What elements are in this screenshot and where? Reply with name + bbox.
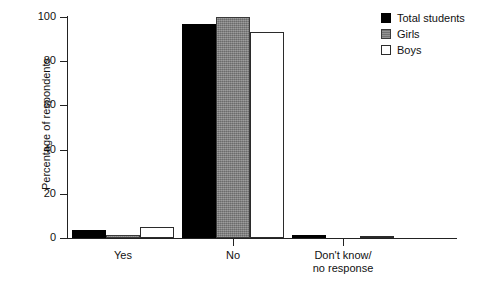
category-separator	[233, 238, 234, 246]
y-axis-tick	[60, 238, 68, 239]
y-axis-tick-label: 80	[30, 55, 56, 66]
y-axis-tick	[60, 61, 68, 62]
legend-item: Girls	[381, 28, 465, 40]
x-axis-label-line: Yes	[68, 249, 178, 262]
y-axis-tick	[60, 17, 68, 18]
bar	[360, 236, 394, 238]
y-axis-tick-label: 20	[30, 188, 56, 199]
bar	[140, 227, 174, 238]
bar	[182, 24, 216, 238]
y-axis-tick	[60, 105, 68, 106]
x-axis-label: No	[178, 249, 288, 275]
x-axis-labels: YesNoDon't know/no response	[68, 249, 398, 275]
y-axis-tick-label: 40	[30, 144, 56, 155]
legend-swatch-icon	[381, 45, 391, 55]
legend-item: Total students	[381, 12, 465, 24]
y-axis-title: Percentage of respondents	[40, 9, 52, 239]
legend-swatch-icon	[381, 13, 391, 23]
y-axis-tick-label: 60	[30, 99, 56, 110]
x-axis-label-line: no response	[288, 262, 398, 275]
x-axis-label: Don't know/no response	[288, 249, 398, 275]
bar	[250, 32, 284, 238]
bar	[216, 17, 250, 238]
x-axis-line	[67, 238, 457, 239]
x-axis-label-line: Don't know/	[288, 249, 398, 262]
category-separator	[343, 238, 344, 246]
legend-label: Boys	[397, 44, 421, 56]
plot-area	[68, 17, 398, 238]
legend-label: Total students	[397, 12, 465, 24]
legend: Total studentsGirlsBoys	[381, 12, 465, 56]
bar	[72, 230, 106, 238]
y-axis-tick	[60, 194, 68, 195]
x-axis-label-line: No	[178, 249, 288, 262]
bar	[106, 235, 140, 238]
bar-group	[68, 17, 178, 238]
legend-swatch-icon	[381, 29, 391, 39]
y-axis-tick	[60, 150, 68, 151]
bar-group	[178, 17, 288, 238]
legend-item: Boys	[381, 44, 465, 56]
x-axis-label: Yes	[68, 249, 178, 275]
bar-chart: Percentage of respondents 020406080100 Y…	[0, 0, 487, 288]
y-axis-tick-label: 0	[30, 232, 56, 243]
y-axis-tick-label: 100	[30, 11, 56, 22]
legend-label: Girls	[397, 28, 420, 40]
bar	[292, 235, 326, 238]
